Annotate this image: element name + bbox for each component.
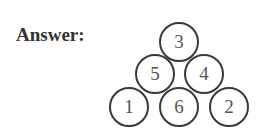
circle-bottom-right: 2: [209, 87, 249, 127]
circle-middle-left: 5: [135, 54, 175, 94]
circle-middle-right: 4: [184, 54, 224, 94]
answer-label: Answer:: [16, 24, 85, 46]
circle-value: 4: [199, 63, 209, 85]
circle-bottom-left: 1: [109, 87, 149, 127]
circle-value: 2: [224, 96, 234, 118]
circle-bottom-middle: 6: [159, 87, 199, 127]
circle-value: 3: [174, 31, 184, 53]
circle-value: 6: [174, 96, 184, 118]
circle-value: 5: [150, 63, 160, 85]
circle-value: 1: [124, 96, 134, 118]
